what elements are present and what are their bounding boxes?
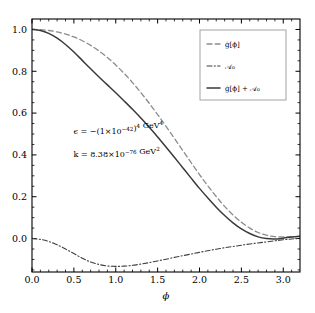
x-tick-label: 3.0 — [276, 274, 291, 285]
legend: ġ[ϕ]𝒜₀ġ[ϕ] + 𝒜₀ — [200, 30, 286, 100]
chart-canvas: 0.00.51.01.52.02.53.0 0.00.20.40.60.81.0… — [0, 0, 315, 313]
x-tick-label: 1.0 — [108, 274, 123, 285]
y-tick-label: 0.2 — [12, 191, 27, 202]
legend-label-g_dot_phi: ġ[ϕ] — [225, 41, 240, 49]
x-tick-label: 2.0 — [192, 274, 207, 285]
x-tick-label: 2.5 — [234, 274, 249, 285]
y-tick-label: 0.8 — [12, 66, 27, 77]
legend-label-g_dot_phi_plus_A_0: ġ[ϕ] + 𝒜₀ — [225, 85, 260, 93]
legend-label-A_0: 𝒜₀ — [225, 63, 235, 71]
y-tick-label: 0.4 — [12, 149, 27, 160]
y-tick-label: 1.0 — [12, 24, 27, 35]
y-tick-label: 0.6 — [12, 107, 27, 118]
figure-container: 0.00.51.01.52.02.53.0 0.00.20.40.60.81.0… — [0, 0, 315, 313]
x-tick-label: 0.0 — [24, 274, 39, 285]
x-axis-label: ϕ — [163, 290, 170, 301]
y-tick-label: 0.0 — [12, 233, 27, 244]
x-tick-label: 0.5 — [66, 274, 81, 285]
x-tick-label: 1.5 — [150, 274, 165, 285]
